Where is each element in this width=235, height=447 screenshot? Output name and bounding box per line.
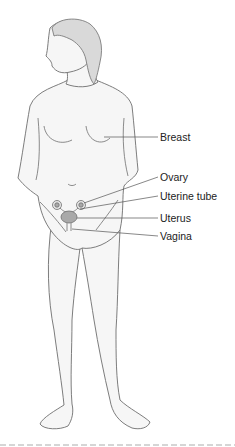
label-uterine-tube: Uterine tube [160, 191, 217, 202]
left-leg [40, 220, 80, 429]
label-vagina: Vagina [160, 231, 192, 242]
female-anatomy-figure [0, 0, 235, 447]
uterus-icon [61, 211, 77, 223]
label-uterus: Uterus [160, 213, 191, 224]
clipped-caption [0, 441, 235, 447]
torso [18, 80, 138, 249]
label-ovary: Ovary [160, 172, 188, 183]
label-breast: Breast [160, 132, 190, 143]
right-leg [82, 230, 150, 429]
